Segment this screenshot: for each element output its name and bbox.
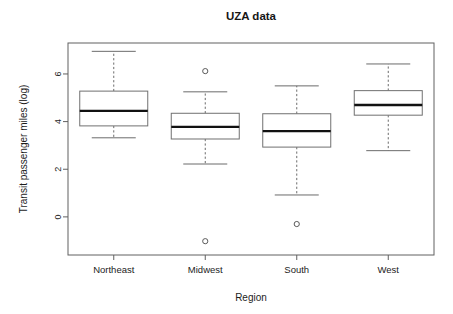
y-axis-tick-label: 0: [53, 214, 63, 219]
outlier-point: [294, 221, 299, 226]
plot-frame: [68, 43, 434, 255]
box-group: [354, 64, 422, 151]
x-axis-category-label: Northeast: [93, 264, 135, 275]
page-title: UZA data: [226, 10, 277, 22]
x-axis-category-label: South: [284, 264, 309, 275]
y-axis: 0246: [53, 71, 68, 219]
y-axis-tick-label: 2: [53, 167, 63, 172]
x-axis-category-label: Midwest: [188, 264, 223, 275]
y-axis-tick-label: 6: [53, 71, 63, 76]
x-axis: NortheastMidwestSouthWest: [93, 255, 399, 275]
box-iqr: [354, 91, 422, 116]
x-axis-category-label: West: [378, 264, 400, 275]
box-group: [80, 51, 148, 137]
outlier-point: [203, 239, 208, 244]
box-group: [263, 86, 331, 227]
y-axis-title: Transit passenger miles (log): [18, 85, 29, 214]
outlier-point: [203, 69, 208, 74]
plot-frame-rect: [68, 43, 434, 255]
x-axis-title: Region: [235, 292, 267, 303]
chart-canvas: 0246 NortheastMidwestSouthWest UZA data …: [0, 0, 453, 314]
box-iqr: [80, 91, 148, 126]
y-axis-tick-label: 4: [53, 119, 63, 124]
box-group: [171, 69, 239, 244]
boxplot-figure: 0246 NortheastMidwestSouthWest UZA data …: [0, 0, 453, 314]
box-series: [80, 51, 423, 243]
